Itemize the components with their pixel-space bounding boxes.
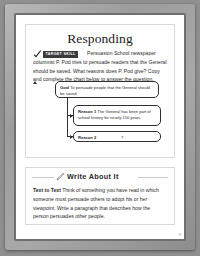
device-frame: Responding Persuasion School newspaper c… [5,4,195,250]
checkmark-icon [33,50,42,59]
persuasion-flow-chart: Goal To persuade people that the General… [33,81,167,153]
textbook-page: Responding Persuasion School newspaper c… [16,15,184,239]
goal-label: Goal [60,85,69,90]
reason-2-placeholder: ? [121,135,123,141]
responding-panel: Responding Persuasion School newspaper c… [25,24,175,158]
write-about-it-panel: Write About It Text to Text Think of som… [25,167,175,225]
pencil-icon [56,172,65,181]
write-about-it-title: Write About It [67,172,119,181]
write-about-it-header: Write About It [56,172,119,181]
target-skill-badge: TARGET SKILL [43,51,78,58]
chart-arrow-up-icon [33,81,37,84]
goal-node: Goal To persuade people that the General… [55,81,159,98]
goal-text: To persuade people that the General shou… [60,85,150,96]
reason-2-node: Reason 2 ? [73,131,161,142]
page-title: Responding [26,31,174,47]
page-number: 9 [179,232,181,237]
reason-1-node: Reason 1 The General has been part of sc… [73,105,161,126]
reason-2-label: Reason 2 [78,135,96,140]
reason-1-label: Reason 1 [78,109,96,114]
chart-stem-line [67,98,68,136]
write-rule-left [32,177,54,178]
write-about-it-body: Text to Text Think of something you have… [33,186,167,221]
target-skill-row: TARGET SKILL [33,50,78,59]
write-rule-right [138,177,168,178]
text-to-text-label: Text to Text [33,187,61,193]
